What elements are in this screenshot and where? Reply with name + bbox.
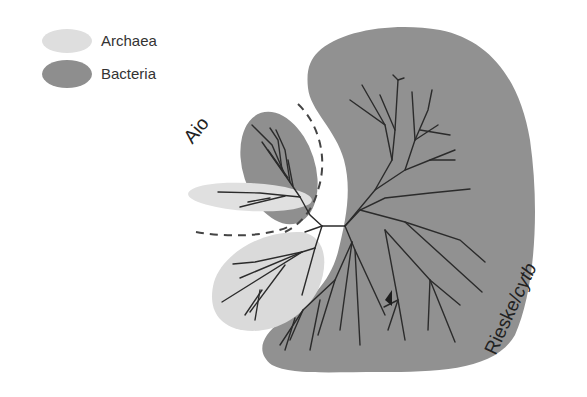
bacteria-aio-region — [227, 102, 331, 235]
dashed-separator-archaea — [196, 226, 290, 235]
legend-swatch-bacteria — [42, 60, 92, 88]
legend-label-archaea: Archaea — [101, 32, 157, 49]
legend-swatch-archaea — [42, 29, 92, 53]
legend-label-bacteria: Bacteria — [101, 65, 156, 82]
phylogenetic-tree-figure: Archaea Bacteria Aio Rieske/cytb — [0, 0, 587, 397]
